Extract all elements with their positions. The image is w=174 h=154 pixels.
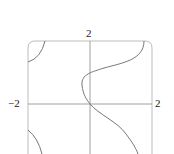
main-curve <box>82 41 144 154</box>
y-top-tick-label: 2 <box>86 28 92 39</box>
upper-left-arc <box>28 41 45 62</box>
lower-left-arc <box>28 130 42 154</box>
plot-area <box>0 0 174 154</box>
x-left-tick-label: −2 <box>8 98 20 109</box>
x-right-tick-label: 2 <box>155 98 161 109</box>
